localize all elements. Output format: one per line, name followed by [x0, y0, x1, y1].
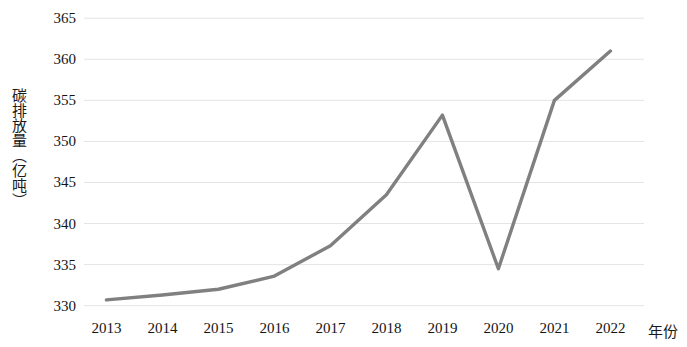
y-axis-tick-label: 340 [32, 215, 76, 232]
x-axis-tick-label: 2022 [595, 320, 625, 337]
data-line [106, 51, 610, 300]
carbon-emission-line-chart: 碳排放量（亿吨） 330335340345350355360365 201320… [0, 0, 687, 347]
x-axis-tick-label: 2015 [203, 320, 233, 337]
data-series-group [106, 51, 610, 300]
y-axis-title: 碳排放量（亿吨） [2, 88, 26, 208]
y-axis-tick-label: 345 [32, 174, 76, 191]
y-axis-tick-labels: 330335340345350355360365 [24, 0, 76, 347]
x-axis-tick-label: 2016 [259, 320, 289, 337]
x-axis-tick-label: 2018 [371, 320, 401, 337]
x-axis-tick-label: 2013 [91, 320, 121, 337]
chart-canvas [84, 10, 644, 318]
x-axis-title: 年份 [648, 320, 678, 341]
y-axis-tick-label: 350 [32, 133, 76, 150]
x-axis-tick-label: 2014 [147, 320, 177, 337]
y-axis-tick-label: 330 [32, 297, 76, 314]
y-axis-tick-label: 365 [32, 10, 76, 27]
y-axis-tick-label: 360 [32, 51, 76, 68]
gridlines-group [84, 18, 644, 305]
plot-area [84, 10, 644, 318]
x-axis-tick-label: 2019 [427, 320, 457, 337]
y-axis-tick-label: 335 [32, 256, 76, 273]
x-axis-tick-label: 2017 [315, 320, 345, 337]
x-axis-tick-label: 2020 [483, 320, 513, 337]
x-axis-tick-label: 2021 [539, 320, 569, 337]
y-axis-tick-label: 355 [32, 92, 76, 109]
x-axis-tick-labels: 2013201420152016201720182019202020212022 [84, 320, 644, 344]
